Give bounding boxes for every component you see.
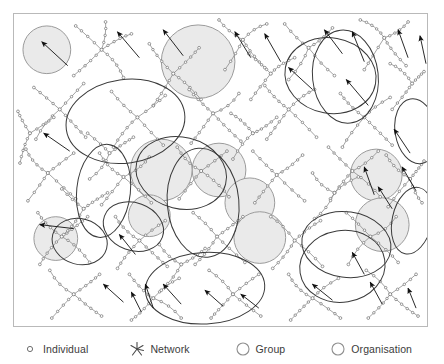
individual-node (412, 174, 414, 176)
individual-node (157, 257, 159, 259)
individual-node (143, 124, 145, 126)
individual-node (415, 170, 417, 172)
individual-node (76, 89, 78, 91)
individual-node (84, 255, 86, 257)
individual-node (96, 198, 98, 200)
individual-node (189, 162, 191, 164)
individual-node (33, 191, 35, 193)
network-link (243, 24, 267, 40)
individual-node (405, 64, 408, 67)
individual-node (234, 52, 236, 54)
individual-node (138, 285, 140, 287)
individual-node (241, 143, 243, 145)
individual-node (224, 68, 227, 71)
individual-node (55, 180, 57, 182)
individual-node (263, 84, 266, 87)
individual-circle-icon (21, 341, 39, 357)
individual-node (60, 187, 63, 190)
individual-node (262, 190, 264, 192)
individual-node (278, 100, 280, 102)
individual-node (56, 310, 58, 312)
individual-node (380, 32, 382, 34)
individual-node (238, 298, 240, 300)
individual-node (233, 99, 235, 101)
individual-node (191, 257, 193, 259)
individual-node (351, 255, 353, 257)
individual-node (414, 79, 416, 81)
individual-node (320, 303, 322, 305)
individual-node (36, 164, 38, 166)
individual-node (367, 62, 369, 64)
individual-node (347, 102, 349, 104)
individual-node (228, 247, 230, 249)
individual-node (417, 315, 420, 318)
network-diagram-figure: Individual Network (0, 0, 444, 364)
individual-node (145, 110, 147, 112)
individual-node (207, 119, 209, 121)
individual-node (90, 307, 92, 309)
individual-node (283, 104, 285, 106)
individual-node (368, 121, 370, 123)
individual-node (132, 235, 134, 237)
individual-node (218, 19, 221, 22)
individual-node (184, 190, 186, 192)
individual-node (151, 229, 153, 231)
individual-node (406, 307, 408, 309)
group-shapes-layer (23, 25, 409, 263)
individual-node (45, 122, 47, 124)
individual-node (291, 163, 293, 165)
individual-node (246, 137, 248, 139)
individual-node (85, 284, 87, 286)
individual-node (190, 182, 192, 184)
individual-node (123, 256, 125, 258)
individual-node-hub (152, 297, 155, 300)
individual-node (228, 29, 230, 31)
individual-node (347, 175, 349, 177)
individual-node (381, 101, 383, 103)
individual-node (357, 176, 360, 179)
individual-node (120, 262, 122, 264)
individual-node (164, 94, 167, 97)
individual-node (265, 164, 267, 166)
individual-node (202, 103, 204, 105)
individual-node (227, 286, 229, 288)
individual-node (287, 273, 290, 276)
individual-node (403, 72, 405, 74)
individual-node (200, 98, 203, 101)
individual-node (39, 91, 41, 93)
individual-node (395, 215, 398, 218)
individual-node (192, 211, 195, 214)
individual-node (167, 305, 169, 307)
individual-node (186, 260, 188, 262)
individual-node (337, 277, 340, 280)
individual-node (265, 23, 268, 26)
individual-node-hub (231, 293, 234, 296)
individual-node (221, 280, 223, 282)
individual-node (293, 56, 296, 59)
individual-node (294, 114, 296, 116)
individual-node (222, 24, 224, 26)
individual-node (111, 168, 113, 170)
individual-node (300, 62, 302, 64)
individual-node (290, 30, 292, 32)
individual-node (104, 21, 107, 24)
individual-node (212, 242, 214, 244)
individual-node (163, 250, 165, 252)
individual-node (217, 308, 219, 310)
individual-node (88, 178, 91, 181)
network-link (410, 179, 422, 203)
individual-node (208, 269, 211, 272)
individual-node (399, 58, 401, 60)
individual-node (62, 304, 64, 306)
individual-node (264, 79, 266, 81)
individual-node (121, 132, 123, 134)
individual-node (152, 105, 154, 107)
individual-node-hub (287, 108, 290, 111)
individual-node (93, 138, 95, 140)
individual-node (230, 112, 233, 115)
group-shape (23, 26, 71, 74)
individual-node (86, 132, 89, 135)
individual-node (150, 201, 153, 204)
individual-node (251, 277, 253, 279)
individual-node (90, 280, 92, 282)
